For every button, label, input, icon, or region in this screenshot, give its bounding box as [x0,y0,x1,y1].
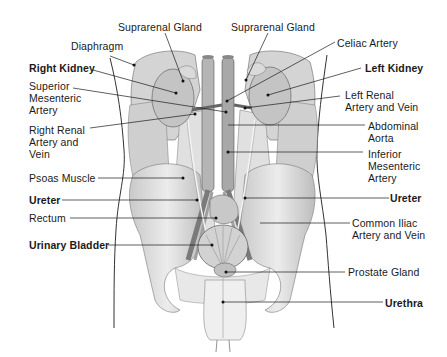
label-rectum: Rectum [29,212,66,224]
urinary-system-diagram: Suprarenal Gland Suprarenal Gland Diaphr… [0,0,447,357]
kidneys [152,63,291,127]
label-common-iliac-artery-vein: Common Iliac Artery and Vein [352,217,425,241]
prostate-gland [214,263,236,277]
label-urinary-bladder: Urinary Bladder [29,239,109,251]
label-superior-mesenteric-artery: Superior Mesenteric Artery [29,80,81,116]
label-psoas-muscle: Psoas Muscle [29,172,96,184]
urinary-bladder [198,225,248,269]
penis-urethra [204,278,247,352]
label-left-renal-artery-vein: Left Renal Artery and Vein [345,89,418,113]
label-prostate-gland: Prostate Gland [348,266,419,278]
label-right-kidney: Right Kidney [29,62,95,74]
label-diaphragm: Diaphragm [71,40,123,52]
label-right-renal-artery-vein: Right Renal Artery and Vein [29,124,85,160]
label-celiac-artery: Celiac Artery [337,37,398,49]
label-urethra: Urethra [385,297,423,309]
label-suprarenal-gland-left: Suprarenal Gland [231,21,315,33]
label-left-kidney: Left Kidney [365,62,423,74]
label-abdominal-aorta: Abdominal Aorta [368,120,419,144]
label-ureter-left-side: Ureter [29,194,61,206]
label-inferior-mesenteric-artery: Inferior Mesenteric Artery [368,148,420,184]
label-suprarenal-gland-right: Suprarenal Gland [118,21,202,33]
label-ureter-right-side: Ureter [390,192,422,204]
